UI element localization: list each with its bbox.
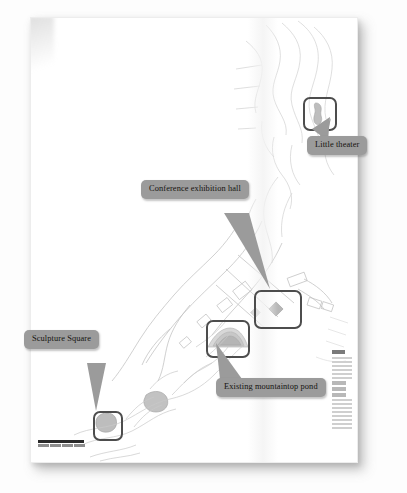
callout-existing-mountaintop-pond[interactable]: Existing mountaintop pond — [216, 378, 326, 397]
legend-swatch — [332, 393, 346, 397]
callout-label-existing-mountaintop-pond: Existing mountaintop pond — [224, 382, 318, 391]
legend-swatch — [332, 381, 346, 385]
scale-bar — [38, 440, 100, 447]
legend-title-bar — [332, 350, 345, 354]
callout-label-sculpture-square: Sculpture Square — [32, 334, 91, 343]
scale-bar-ticks — [38, 444, 100, 447]
callout-little-theater[interactable]: Little theater — [307, 136, 367, 155]
callout-conference-exhibition-hall[interactable]: Conference exhibition hall — [141, 180, 249, 199]
callout-label-conference-exhibition-hall: Conference exhibition hall — [149, 184, 241, 193]
screenshot-canvas: Little theater Conference exhibition hal… — [0, 0, 407, 493]
map-legend — [332, 350, 352, 431]
callout-label-little-theater: Little theater — [315, 140, 359, 149]
scale-bar-line — [38, 440, 84, 443]
callout-sculpture-square[interactable]: Sculpture Square — [24, 330, 99, 349]
legend-swatch — [332, 387, 346, 391]
